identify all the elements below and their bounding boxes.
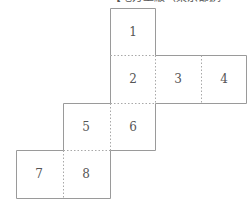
- face-1: 1: [110, 8, 156, 55]
- face-label: 3: [174, 72, 182, 86]
- face-2: 2: [110, 55, 156, 103]
- face-label: 1: [129, 25, 137, 39]
- face-7: 7: [16, 150, 62, 198]
- face-label: 2: [129, 72, 137, 86]
- face-label: 4: [220, 72, 228, 86]
- face-6: 6: [110, 103, 156, 150]
- face-3: 3: [155, 55, 201, 103]
- face-label: 8: [82, 167, 90, 181]
- face-4: 4: [201, 55, 247, 103]
- face-8: 8: [63, 150, 109, 198]
- face-5: 5: [63, 103, 109, 150]
- cube-net-diagram: 1 2 3 4 5 6 7 8: [0, 0, 250, 202]
- face-label: 6: [129, 120, 137, 134]
- face-label: 7: [35, 167, 43, 181]
- face-label: 5: [82, 120, 90, 134]
